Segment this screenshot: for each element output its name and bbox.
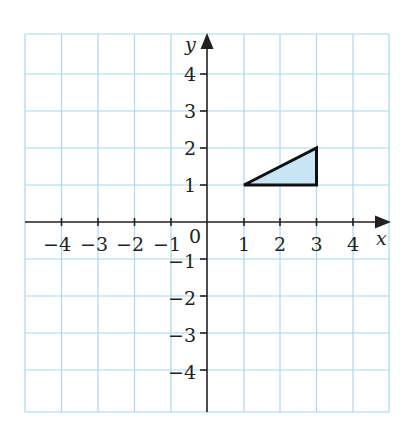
x-tick-label: 4 [347,233,359,255]
y-tick-label: −4 [168,361,196,383]
x-tick-label: −2 [116,233,144,255]
y-tick-label: 4 [184,63,196,85]
y-tick-label: 2 [184,137,196,159]
axes [25,44,380,412]
y-tick-label: 1 [184,174,196,196]
x-axis-label: x [376,227,387,249]
y-tick-label: 3 [184,100,196,122]
x-tick-label: 3 [310,233,322,255]
coordinate-grid-figure: x y 0 −4 −3 −2 −1 1 2 3 4 4 3 2 1 −1 −2 … [0,0,408,424]
x-tick-label: −4 [43,233,71,255]
y-tick-label: −1 [168,250,196,272]
x-tick-label: 1 [238,233,250,255]
origin-label: 0 [189,225,201,247]
y-axis-label: y [184,33,196,55]
x-tick-label: 2 [274,233,286,255]
y-axis-arrow-icon [201,33,214,49]
y-tick-label: −3 [168,324,196,346]
x-tick-label: −3 [80,233,108,255]
y-tick-label: −2 [168,287,196,309]
